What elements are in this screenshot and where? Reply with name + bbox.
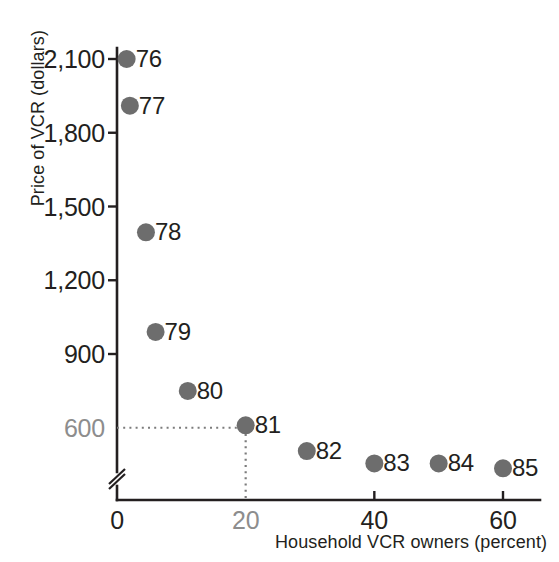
data-point-77[interactable]	[121, 97, 139, 115]
x-tick-label-60: 60	[489, 506, 516, 535]
x-tick-label-40: 40	[361, 506, 388, 535]
data-point-84[interactable]	[430, 454, 448, 472]
y-tick-label-1500: 1,500	[0, 192, 105, 221]
y-tick-label-600: 600	[0, 413, 105, 442]
y-tick-label-2100: 2,100	[0, 45, 105, 74]
data-point-85[interactable]	[494, 459, 512, 477]
data-point-80[interactable]	[179, 382, 197, 400]
axes-group	[109, 48, 540, 500]
x-axis-title: Household VCR owners (percent)	[275, 532, 547, 553]
x-tick-label-20: 20	[232, 506, 259, 535]
data-point-label-80: 80	[197, 377, 223, 405]
data-point-79[interactable]	[147, 323, 165, 341]
data-point-label-84: 84	[448, 449, 474, 477]
data-point-label-78: 78	[155, 218, 181, 246]
y-tick-label-900: 900	[0, 340, 105, 369]
data-point-label-83: 83	[383, 449, 409, 477]
vcr-price-scatter-chart: 2,1001,8001,5001,200900600 0204060 76777…	[0, 0, 559, 562]
data-point-82[interactable]	[298, 442, 316, 460]
data-point-label-79: 79	[165, 318, 191, 346]
tick-marks-group	[108, 59, 503, 500]
guide-lines-group	[117, 428, 246, 500]
data-point-label-76: 76	[136, 45, 162, 73]
data-point-81[interactable]	[237, 416, 255, 434]
data-points-group	[118, 50, 512, 477]
y-tick-label-1200: 1,200	[0, 266, 105, 295]
data-point-label-82: 82	[316, 437, 342, 465]
data-point-label-85: 85	[512, 454, 538, 482]
y-tick-label-1800: 1,800	[0, 118, 105, 147]
x-tick-label-0: 0	[110, 506, 124, 535]
y-axis-title: Price of VCR (dollars)	[28, 30, 49, 206]
data-point-label-77: 77	[139, 92, 165, 120]
data-point-83[interactable]	[365, 454, 383, 472]
data-point-78[interactable]	[137, 223, 155, 241]
data-point-76[interactable]	[118, 50, 136, 68]
data-point-label-81: 81	[255, 411, 281, 439]
